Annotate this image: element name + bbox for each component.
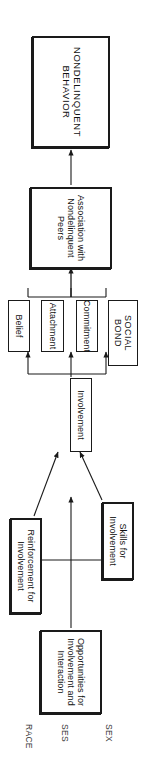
- node-belief[interactable]: Belief: [8, 300, 30, 352]
- edge-involvement-to-bond: [28, 352, 106, 377]
- background-variable-ses: SES: [60, 724, 70, 742]
- node-opportunities[interactable]: Opportunities for Involvement and Intera…: [40, 630, 102, 714]
- node-label: Attachment: [47, 301, 57, 352]
- diagram-canvas: NONDELINQUENT BEHAVIOR Association with …: [0, 0, 142, 780]
- node-involvement[interactable]: Involvement: [70, 378, 92, 452]
- node-skills-for-involvement[interactable]: Skills for Involvement: [102, 502, 134, 580]
- node-attachment[interactable]: Attachment: [41, 300, 64, 352]
- node-label: Opportunities for Involvement and Intera…: [56, 632, 86, 712]
- node-social-bond[interactable]: SOCIAL BOND: [108, 300, 138, 366]
- node-commitment[interactable]: Commitment: [76, 300, 98, 352]
- node-label: NONDELINQUENT BEHAVIOR: [60, 38, 81, 146]
- node-nondelinquent-behavior[interactable]: NONDELINQUENT BEHAVIOR: [32, 36, 110, 148]
- edge-bond-bracket-to-association: [28, 268, 106, 297]
- node-association-peers[interactable]: Association with Nondelinquent Peers: [30, 187, 112, 269]
- node-label: Association with Nondelinquent Peers: [56, 189, 86, 267]
- node-label: SOCIAL BOND: [113, 301, 133, 365]
- background-variable-label: RACE: [24, 724, 34, 749]
- background-variable-race: RACE: [24, 724, 34, 749]
- node-label: Belief: [14, 312, 24, 339]
- node-label: Involvement: [76, 388, 86, 442]
- background-variable-label: SEX: [104, 724, 114, 742]
- node-label: Commitment: [82, 298, 92, 354]
- node-reinforcement-for-involvement[interactable]: Reinforcement for Involvement: [10, 518, 42, 614]
- edge-reinforcement-to-involvement: [34, 452, 58, 516]
- background-variable-sex: SEX: [104, 724, 114, 742]
- edge-skills-to-involvement: [80, 452, 102, 500]
- node-label: Skills for Involvement: [108, 504, 128, 578]
- background-variable-label: SES: [60, 724, 70, 742]
- node-label: Reinforcement for Involvement: [16, 520, 36, 612]
